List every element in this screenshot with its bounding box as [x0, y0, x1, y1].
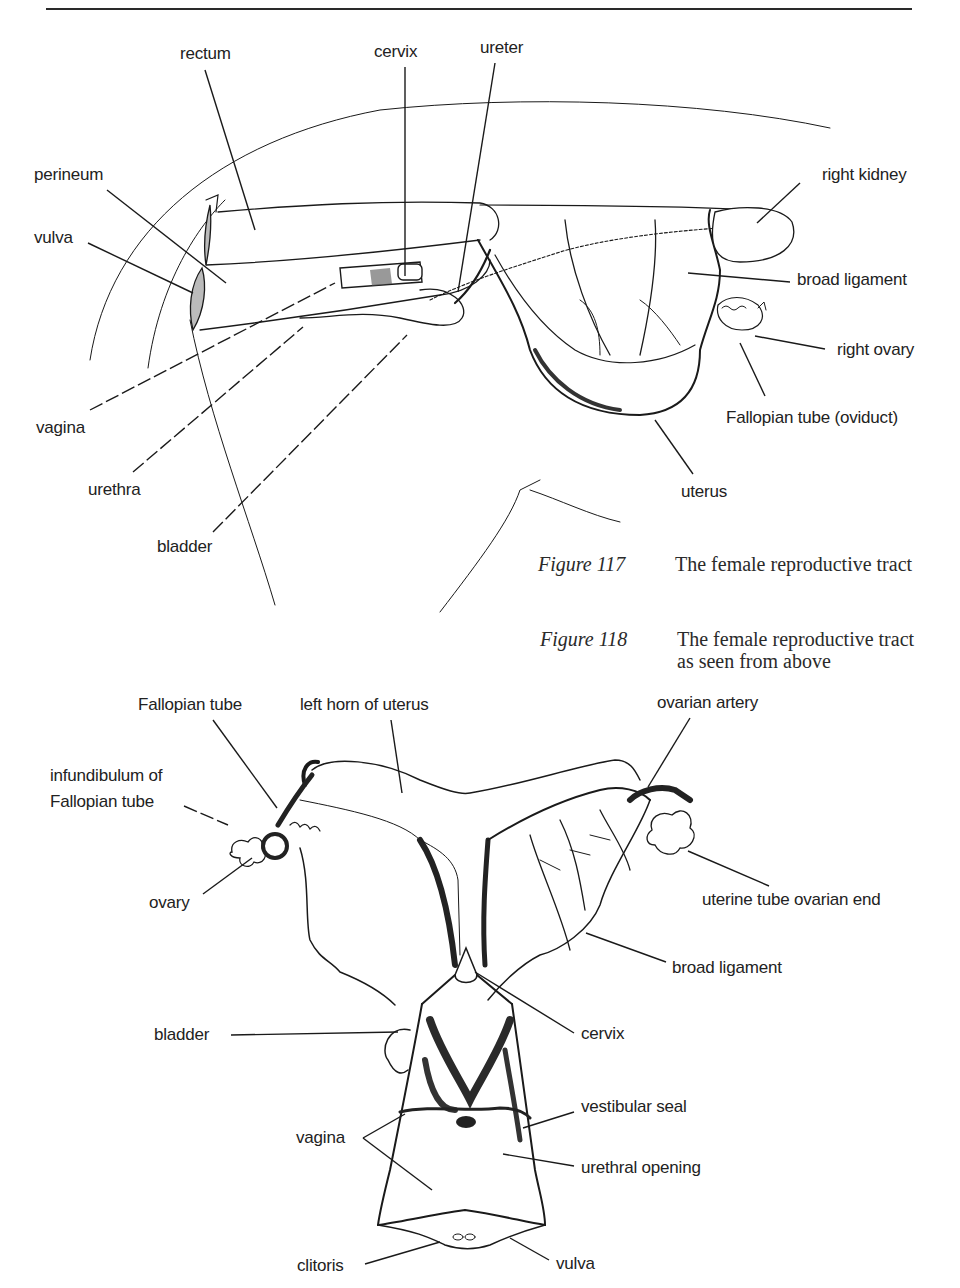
label-uterine-tube-ovarian-end: uterine tube ovarian end	[702, 890, 881, 910]
label-rectum: rectum	[180, 44, 231, 64]
label-urethral-opening: urethral opening	[581, 1158, 701, 1178]
label-ovarian-artery: ovarian artery	[657, 693, 758, 713]
label-urethra: urethra	[88, 480, 140, 500]
label-infundibulum-line1: infundibulum of	[50, 766, 162, 786]
label-vagina: vagina	[296, 1128, 345, 1148]
label-broad-ligament: broad ligament	[797, 270, 907, 290]
label-perineum: perineum	[34, 165, 103, 185]
label-ureter: ureter	[480, 38, 523, 58]
label-right-kidney: right kidney	[822, 165, 907, 185]
label-broad-ligament: broad ligament	[672, 958, 782, 978]
label-uterus: uterus	[681, 482, 727, 502]
figure-117-number: Figure 117	[538, 553, 625, 575]
label-vagina: vagina	[36, 418, 85, 438]
label-bladder: bladder	[154, 1025, 209, 1045]
figure-117-drawing	[90, 102, 830, 612]
label-fallopian-tube-oviduct: Fallopian tube (oviduct)	[726, 408, 898, 428]
label-bladder: bladder	[157, 537, 212, 557]
label-vulva: vulva	[556, 1254, 595, 1274]
figure-117-caption-text: The female reproductive tract	[675, 553, 915, 575]
label-left-horn-of-uterus: left horn of uterus	[300, 695, 429, 715]
label-vulva: vulva	[34, 228, 73, 248]
label-clitoris: clitoris	[297, 1256, 344, 1276]
label-infundibulum-line2: Fallopian tube	[50, 792, 154, 812]
figure-118-caption-text: The female reproductive tract as seen fr…	[677, 628, 917, 672]
label-cervix: cervix	[374, 42, 417, 62]
textbook-page: rectum cervix ureter perineum vulva righ…	[0, 0, 960, 1288]
label-fallopian-tube: Fallopian tube	[138, 695, 242, 715]
figure-118-number: Figure 118	[540, 628, 627, 650]
label-ovary: ovary	[149, 893, 190, 913]
figure-118-leader-lines	[184, 718, 769, 1264]
label-cervix: cervix	[581, 1024, 624, 1044]
label-vestibular-seal: vestibular seal	[581, 1097, 687, 1117]
label-right-ovary: right ovary	[837, 340, 914, 360]
